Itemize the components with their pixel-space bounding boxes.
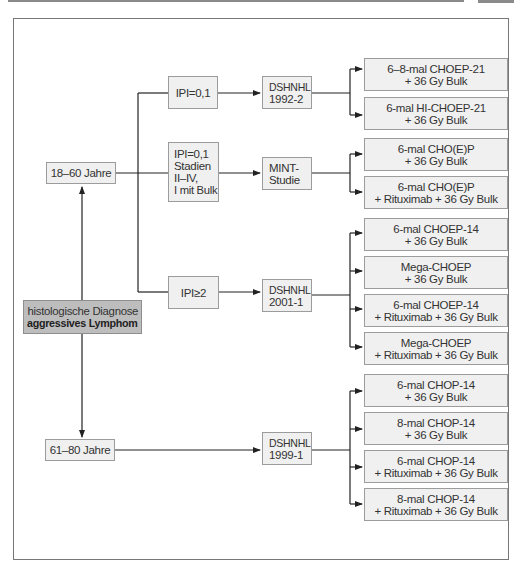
arm-line: 6-mal CHOEP-14 <box>393 223 478 235</box>
age-group-18-60-box: 18–60 Jahre <box>46 162 116 184</box>
arm-line: + 36 Gy Bulk <box>405 273 468 285</box>
arm-box: Mega-CHOEP + Rituximab + 36 Gy Bulk <box>364 332 508 365</box>
arm-line: + Rituximab + 36 Gy Bulk <box>374 193 497 205</box>
arm-line: 6-mal CHO(E)P <box>398 181 475 193</box>
study-mint-box: MINT- Studie <box>262 157 312 190</box>
study-dshnhl-1992-2-box: DSHNHL 1992-2 <box>262 76 312 109</box>
arm-line: + Rituximab + 36 Gy Bulk <box>374 505 497 517</box>
arm-line: 6–8-mal CHOEP-21 <box>387 63 484 75</box>
criterion-line: IPI=0,1 <box>174 148 209 160</box>
study-line: 2001-1 <box>269 296 303 308</box>
study-line: MINT- <box>269 162 299 174</box>
arm-line: + 36 Gy Bulk <box>405 155 468 167</box>
root-diagnosis-box: histologische Diagnose aggressives Lymph… <box>23 300 142 334</box>
arm-line: + 36 Gy Bulk <box>405 429 468 441</box>
root-line1: histologische Diagnose <box>27 305 138 317</box>
arm-line: 6-mal CHO(E)P <box>398 143 475 155</box>
age-group-label: 61–80 Jahre <box>50 444 111 456</box>
arm-box: 6-mal CHO(E)P + Rituximab + 36 Gy Bulk <box>364 176 508 209</box>
criterion-ipi-0-1-box: IPI=0,1 <box>168 76 218 109</box>
criterion-ipi-ge-2-box: IPI≥2 <box>168 276 219 309</box>
arm-box: 6-mal CHOP-14 + Rituximab + 36 Gy Bulk <box>364 450 508 483</box>
study-line: 1992-2 <box>269 93 303 105</box>
arm-box: 8-mal CHOP-14 + Rituximab + 36 Gy Bulk <box>364 488 508 521</box>
arm-line: Mega-CHOEP <box>401 261 472 273</box>
arm-line: + 36 Gy Bulk <box>405 235 468 247</box>
age-group-61-80-box: 61–80 Jahre <box>45 439 115 461</box>
criterion-ipi-0-1-stadien-box: IPI=0,1 Stadien II–IV, I mit Bulk <box>168 142 219 202</box>
criterion-line: Stadien <box>174 160 211 172</box>
arm-box: 6-mal CHOEP-14 + Rituximab + 36 Gy Bulk <box>364 294 508 327</box>
study-line: Studie <box>269 174 300 186</box>
root-line2: aggressives Lymphom <box>27 317 138 329</box>
arm-line: + Rituximab + 36 Gy Bulk <box>374 467 497 479</box>
arm-line: 6-mal CHOP-14 <box>397 455 475 467</box>
arm-line: + 36 Gy Bulk <box>405 391 468 403</box>
arm-box: 6-mal HI-CHOEP-21 + 36 Gy Bulk <box>364 97 508 130</box>
study-dshnhl-1999-1-box: DSHNHL 1999-1 <box>262 432 312 465</box>
arm-line: 6-mal CHOEP-14 <box>393 299 478 311</box>
study-line: 1999-1 <box>269 449 303 461</box>
arm-box: Mega-CHOEP + 36 Gy Bulk <box>364 256 508 289</box>
age-group-label: 18–60 Jahre <box>51 167 112 179</box>
arm-box: 6–8-mal CHOEP-21 + 36 Gy Bulk <box>364 58 508 91</box>
arm-line: 6-mal CHOP-14 <box>397 379 475 391</box>
arm-line: 8-mal CHOP-14 <box>397 493 475 505</box>
arm-box: 8-mal CHOP-14 + 36 Gy Bulk <box>364 412 508 445</box>
study-line: DSHNHL <box>269 284 311 296</box>
criterion-line: II–IV, <box>174 172 198 184</box>
arm-line: 8-mal CHOP-14 <box>397 417 475 429</box>
arm-box: 6-mal CHOEP-14 + 36 Gy Bulk <box>364 218 508 251</box>
study-line: DSHNHL <box>269 437 311 449</box>
arm-box: 6-mal CHOP-14 + 36 Gy Bulk <box>364 374 508 407</box>
arm-line: Mega-CHOEP <box>401 337 472 349</box>
arm-line: + Rituximab + 36 Gy Bulk <box>374 349 497 361</box>
study-dshnhl-2001-1-box: DSHNHL 2001-1 <box>262 279 312 312</box>
arm-box: 6-mal CHO(E)P + 36 Gy Bulk <box>364 138 508 171</box>
criterion-line: I mit Bulk <box>174 184 217 196</box>
criterion-line: IPI≥2 <box>181 287 206 299</box>
arm-line: 6-mal HI-CHOEP-21 <box>386 102 486 114</box>
arm-line: + Rituximab + 36 Gy Bulk <box>374 311 497 323</box>
criterion-line: IPI=0,1 <box>176 87 211 99</box>
study-line: DSHNHL <box>269 81 311 93</box>
arm-line: + 36 Gy Bulk <box>405 75 468 87</box>
arm-line: + 36 Gy Bulk <box>405 114 468 126</box>
